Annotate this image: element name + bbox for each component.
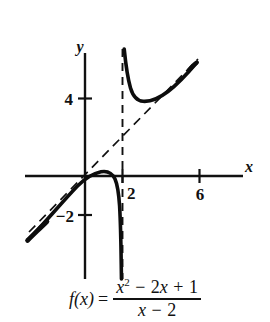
formula-lhs: f(x) — [69, 289, 94, 310]
numerator-plus-sign: + — [172, 277, 184, 297]
figure-page: y x 4 −2 2 6 f(x) = — [0, 0, 270, 322]
formula-fraction: x2 − 2x + 1 x − 2 — [113, 278, 201, 319]
y-tick-label-4: 4 — [65, 90, 74, 109]
numerator-exponent-2: 2 — [124, 276, 130, 288]
curve-right-branch — [124, 49, 197, 101]
numerator-minus-sign: − — [134, 277, 146, 297]
x-tick-label-2: 2 — [127, 184, 136, 203]
formula-equals-sign: = — [97, 289, 110, 310]
function-curve-group — [28, 49, 197, 279]
denominator-constant-2: 2 — [167, 300, 176, 320]
formula-denominator: x − 2 — [135, 300, 179, 320]
formula-numerator: x2 − 2x + 1 — [113, 278, 201, 298]
axes-group — [25, 53, 243, 279]
tick-marks-group — [78, 99, 200, 216]
function-formula-caption: f(x) = x2 − 2x + 1 x − 2 — [0, 276, 270, 322]
asymptotes-group — [29, 49, 198, 279]
function-graph-canvas: y x 4 −2 2 6 — [0, 0, 270, 322]
numerator-term-x: x — [116, 277, 124, 297]
numerator-constant-1: 1 — [189, 277, 198, 297]
x-axis-label: x — [244, 158, 253, 175]
y-tick-label-neg2: −2 — [56, 207, 74, 226]
y-axis-label: y — [74, 38, 84, 56]
denominator-minus-sign: − — [150, 300, 162, 320]
slant-asymptote-line — [29, 59, 198, 232]
formula-row: f(x) = x2 − 2x + 1 x − 2 — [69, 278, 201, 319]
x-tick-label-6: 6 — [196, 185, 205, 204]
denominator-term-x: x — [138, 300, 146, 320]
numerator-coefficient-2: 2 — [151, 277, 160, 297]
numerator-term-x-linear: x — [160, 277, 168, 297]
